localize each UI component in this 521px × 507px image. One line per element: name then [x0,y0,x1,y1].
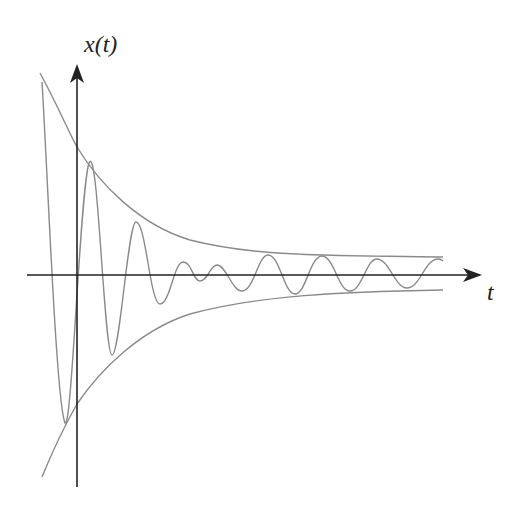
x-axis-label: t [487,279,495,305]
y-axis-label: x(t) [83,31,117,57]
diagram-canvas: x(t) t [0,0,521,507]
lower-envelope [42,290,443,477]
upper-envelope [40,73,443,257]
damped-oscillation-diagram: x(t) t [0,0,521,507]
